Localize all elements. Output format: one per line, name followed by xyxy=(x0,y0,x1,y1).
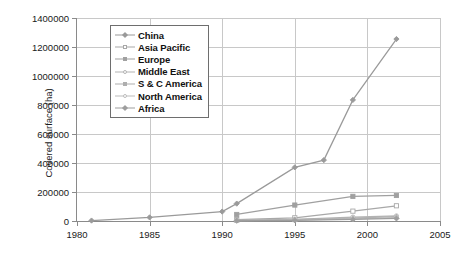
series-europe xyxy=(235,193,399,216)
legend-label: Africa xyxy=(138,103,164,114)
legend-item[interactable]: Africa xyxy=(115,102,202,114)
legend-item[interactable]: North America xyxy=(115,90,202,102)
data-point xyxy=(351,209,355,213)
data-point xyxy=(394,204,398,208)
chart-legend: ChinaAsia PacificEuropeMiddle EastS & C … xyxy=(110,25,209,118)
legend-item[interactable]: China xyxy=(115,29,202,41)
legend-label: Asia Pacific xyxy=(138,42,190,53)
data-point xyxy=(235,212,239,216)
x-axis-tick xyxy=(440,221,441,226)
data-point xyxy=(89,218,94,223)
data-point xyxy=(293,203,297,207)
legend-item[interactable]: Middle East xyxy=(115,66,202,78)
y-axis-label: 200000 xyxy=(37,187,69,198)
legend-item[interactable]: Asia Pacific xyxy=(115,41,202,53)
data-point xyxy=(321,157,326,162)
y-axis-label: 600000 xyxy=(37,129,69,140)
data-point xyxy=(220,209,225,214)
x-axis-label: 2005 xyxy=(429,229,450,240)
x-axis-label: 1990 xyxy=(212,229,233,240)
x-axis-label: 1995 xyxy=(284,229,305,240)
y-axis-label: 800000 xyxy=(37,100,69,111)
y-axis-label: 400000 xyxy=(37,158,69,169)
legend-marker-icon xyxy=(115,54,135,64)
legend-marker-icon xyxy=(115,42,135,52)
y-axis-label: 1200000 xyxy=(32,42,69,53)
legend-item[interactable]: S & C America xyxy=(115,78,202,90)
legend-item[interactable]: Europe xyxy=(115,53,202,65)
legend-label: North America xyxy=(138,91,202,102)
legend-marker-icon xyxy=(115,79,135,89)
legend-marker-icon xyxy=(115,103,135,113)
legend-label: China xyxy=(138,30,164,41)
x-axis-tick xyxy=(367,221,368,226)
x-axis-label: 1980 xyxy=(66,229,87,240)
series-line xyxy=(237,195,397,214)
legend-label: Europe xyxy=(138,54,170,65)
data-point xyxy=(147,215,152,220)
x-axis-tick xyxy=(77,221,78,226)
gridline-vertical xyxy=(440,18,441,221)
y-axis-label: 0 xyxy=(64,216,69,227)
legend-marker-icon xyxy=(115,67,135,77)
data-point xyxy=(394,193,398,197)
y-axis-label: 1000000 xyxy=(32,71,69,82)
legend-label: S & C America xyxy=(138,78,202,89)
legend-marker-icon xyxy=(115,30,135,40)
data-point xyxy=(351,194,355,198)
legend-marker-icon xyxy=(115,91,135,101)
x-axis-tick xyxy=(222,221,223,226)
legend-label: Middle East xyxy=(138,66,190,77)
y-axis-label: 1400000 xyxy=(32,13,69,24)
x-axis-label: 2000 xyxy=(357,229,378,240)
x-axis-tick xyxy=(150,221,151,226)
x-axis-label: 1985 xyxy=(139,229,160,240)
